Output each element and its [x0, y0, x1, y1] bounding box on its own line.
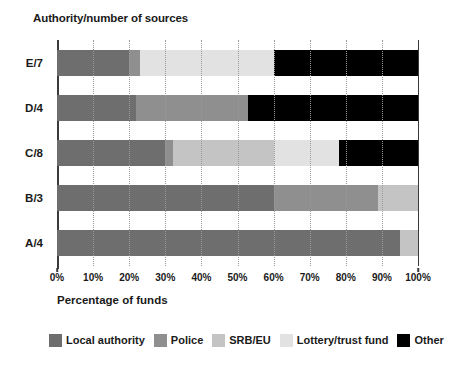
bar-segment	[400, 230, 418, 256]
bar-segment	[140, 50, 274, 76]
x-tick-label: 30%	[155, 272, 175, 283]
bar-segment	[339, 140, 418, 166]
x-tick-label: 70%	[300, 272, 320, 283]
bar-row	[57, 50, 418, 76]
bar-segment	[57, 50, 129, 76]
legend-swatch-icon	[154, 334, 167, 347]
gridline-100	[418, 40, 420, 266]
bar-segment	[378, 185, 418, 211]
bar-row	[57, 185, 418, 211]
bar-segment	[274, 185, 379, 211]
bar-series-container	[57, 40, 418, 266]
stacked-bar-chart: Authority/number of sources E/7D/4C/8B/3…	[0, 0, 456, 377]
bar-segment	[173, 140, 274, 166]
x-tick-label: 100%	[405, 272, 431, 283]
category-label: D/4	[25, 95, 43, 121]
bar-segment	[274, 140, 339, 166]
x-tick-label: 50%	[227, 272, 247, 283]
x-tick-label: 10%	[83, 272, 103, 283]
bar-segment	[165, 140, 172, 166]
category-labels: E/7D/4C/8B/3A/4	[0, 40, 52, 266]
category-label: A/4	[25, 230, 43, 256]
legend-swatch-icon	[280, 334, 293, 347]
legend-swatch-icon	[212, 334, 225, 347]
legend-label: Other	[414, 335, 443, 346]
x-tick-label: 80%	[336, 272, 356, 283]
x-tick-label: 20%	[119, 272, 139, 283]
x-tick-label: 60%	[264, 272, 284, 283]
legend-label: Local authority	[66, 335, 145, 346]
bar-row	[57, 230, 418, 256]
legend-label: SRB/EU	[229, 335, 271, 346]
chart-legend: Local authorityPoliceSRB/EULottery/trust…	[49, 334, 444, 347]
plot-area	[57, 40, 418, 266]
legend-item: SRB/EU	[212, 334, 271, 347]
category-label: C/8	[25, 140, 43, 166]
legend-swatch-icon	[49, 334, 62, 347]
legend-item: Lottery/trust fund	[280, 334, 389, 347]
x-tick-label: 0%	[50, 272, 64, 283]
category-label: E/7	[26, 50, 43, 76]
bar-row	[57, 140, 418, 166]
bar-row	[57, 95, 418, 121]
x-tick-label: 40%	[191, 272, 211, 283]
bar-segment	[57, 185, 274, 211]
legend-label: Police	[171, 335, 203, 346]
x-tick-label: 90%	[372, 272, 392, 283]
legend-item: Other	[397, 334, 443, 347]
x-axis-title: Percentage of funds	[57, 294, 168, 306]
legend-item: Police	[154, 334, 203, 347]
bar-segment	[129, 50, 140, 76]
legend-swatch-icon	[397, 334, 410, 347]
bar-segment	[274, 50, 418, 76]
bar-segment	[57, 140, 165, 166]
bar-segment	[136, 95, 248, 121]
legend-label: Lottery/trust fund	[297, 335, 389, 346]
legend-item: Local authority	[49, 334, 145, 347]
bar-segment	[57, 230, 400, 256]
bar-segment	[57, 95, 136, 121]
category-label: B/3	[25, 185, 43, 211]
bar-segment	[248, 95, 418, 121]
y-axis-title: Authority/number of sources	[33, 12, 188, 24]
x-axis-tick-labels: 0%10%20%30%40%50%60%70%80%90%100%	[57, 272, 418, 288]
